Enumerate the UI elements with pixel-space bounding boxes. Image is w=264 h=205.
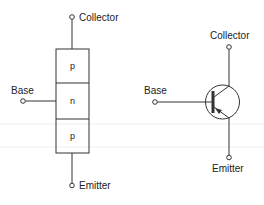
emitter-label: Emitter: [79, 180, 111, 191]
layer-p-top: p: [70, 61, 75, 71]
collector-label: Collector: [79, 12, 119, 23]
base-terminal: [21, 99, 26, 104]
layer-n: n: [70, 96, 75, 106]
pnp-layer-structure: [21, 15, 89, 188]
emitter-terminal: [70, 183, 75, 188]
collector-label: Collector: [210, 30, 250, 41]
collector-terminal: [70, 15, 75, 20]
transistor-diagram: Collector Base Emitter p n p Collector B…: [0, 0, 264, 205]
base-label: Base: [11, 85, 34, 96]
collector-terminal: [227, 45, 232, 50]
collector-junction: [214, 86, 229, 97]
base-label: Base: [144, 85, 167, 96]
layer-p-bottom: p: [70, 131, 75, 141]
base-terminal: [153, 100, 158, 105]
pnp-symbol: [153, 45, 240, 160]
emitter-arrow-icon: [215, 108, 222, 114]
emitter-terminal: [227, 155, 232, 160]
emitter-label: Emitter: [212, 163, 244, 174]
